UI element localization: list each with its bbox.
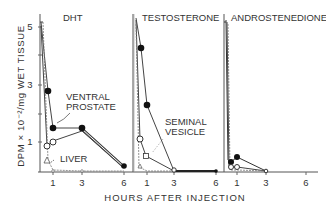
- x-tick-3: 3: [171, 177, 176, 188]
- annotation-liver: LIVER: [60, 153, 88, 164]
- chart: DPM × 10⁻²/mg WET TISSUE 5 3 1 DHT: [0, 0, 326, 208]
- panel-dht: DHT VENTRAL PROSTATE LIVER 1 3 6: [38, 12, 127, 188]
- x-tick-3: 3: [79, 177, 84, 188]
- y-tick-5: 5: [27, 21, 32, 32]
- x-tick-6: 6: [213, 177, 218, 188]
- x-tick-1: 1: [234, 177, 239, 188]
- panel-title-dht: DHT: [63, 12, 83, 23]
- x-axis-label: HOURS AFTER INJECTION: [104, 192, 245, 203]
- x-tick-6: 6: [121, 177, 126, 188]
- y-tick-3: 3: [27, 79, 32, 90]
- panel-title-testosterone: TESTOSTERONE: [142, 12, 219, 23]
- x-tick-6: 6: [303, 177, 308, 188]
- panel-testosterone: TESTOSTERONE SEMINAL VESICLE 1 3 6: [133, 12, 219, 188]
- x-tick-1: 1: [144, 177, 149, 188]
- x-tick-3: 3: [263, 177, 268, 188]
- y-tick-1: 1: [27, 136, 32, 147]
- annotation-vesicle: VESICLE: [165, 126, 205, 137]
- annotation-prostate: PROSTATE: [66, 101, 116, 112]
- panel-androstenedione: ANDROSTENEDIONE 1 3 6: [224, 12, 326, 188]
- y-axis-label: DPM × 10⁻²/mg WET TISSUE: [15, 25, 26, 166]
- x-tick-1: 1: [50, 177, 55, 188]
- panel-title-androstenedione: ANDROSTENEDIONE: [231, 12, 326, 23]
